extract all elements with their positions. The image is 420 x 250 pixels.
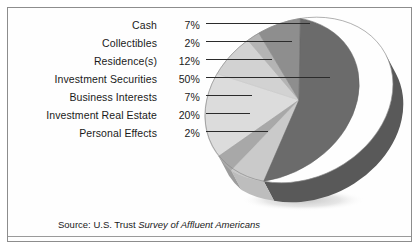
callout-row-residences: Residence(s) 12% bbox=[18, 52, 200, 70]
callout-label-list: Cash 7% Collectibles 2% Residence(s) 12%… bbox=[18, 16, 200, 142]
callout-label: Residence(s) bbox=[94, 52, 157, 70]
callout-percent: 20% bbox=[166, 106, 200, 124]
callout-percent: 7% bbox=[166, 88, 200, 106]
source-note: Source: U.S. Trust Survey of Affluent Am… bbox=[58, 219, 260, 230]
source-divider bbox=[8, 236, 411, 237]
callout-label: Business Interests bbox=[69, 88, 157, 106]
callout-row-collectibles: Collectibles 2% bbox=[18, 34, 200, 52]
callout-label: Cash bbox=[132, 16, 157, 34]
callout-row-personal-effects: Personal Effects 2% bbox=[18, 124, 200, 142]
source-prefix: Source: U.S. Trust bbox=[58, 219, 138, 230]
callout-percent: 2% bbox=[166, 124, 200, 142]
chart-figure: Cash 7% Collectibles 2% Residence(s) 12%… bbox=[0, 0, 420, 250]
callout-row-investment-securities: Investment Securities 50% bbox=[18, 70, 200, 88]
callout-percent: 12% bbox=[166, 52, 200, 70]
callout-row-business-interests: Business Interests 7% bbox=[18, 88, 200, 106]
callout-row-investment-real-estate: Investment Real Estate 20% bbox=[18, 106, 200, 124]
callout-label: Personal Effects bbox=[79, 124, 157, 142]
pie-chart-3d bbox=[196, 4, 411, 219]
callout-percent: 50% bbox=[166, 70, 200, 88]
callout-label: Collectibles bbox=[102, 34, 157, 52]
callout-row-cash: Cash 7% bbox=[18, 16, 200, 34]
callout-label: Investment Real Estate bbox=[46, 106, 157, 124]
callout-percent: 7% bbox=[166, 16, 200, 34]
callout-label: Investment Securities bbox=[55, 70, 157, 88]
source-title: Survey of Affluent Americans bbox=[138, 219, 260, 230]
callout-percent: 2% bbox=[166, 34, 200, 52]
